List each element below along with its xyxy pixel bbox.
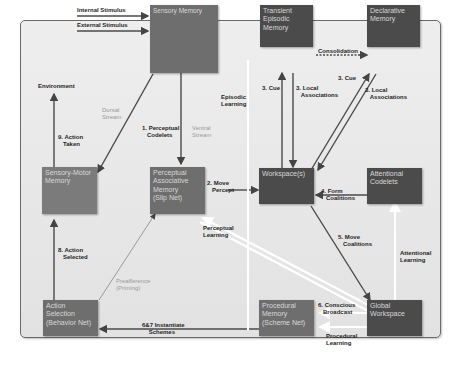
label-episodic-learning: Episodic Learning xyxy=(221,94,246,108)
label-move-coalitions: 5. Move Coalitions xyxy=(338,234,372,248)
label-move-percept: 2. Move Percept xyxy=(207,180,234,194)
label-preafference: Preafference (Priming) xyxy=(116,278,150,292)
node-declarative-memory: Declarative Memory xyxy=(367,5,420,47)
label-procedural-learning: Procedural Learning xyxy=(326,333,357,347)
node-workspace: Workspace(s) xyxy=(259,168,314,204)
label-environment: Environment xyxy=(38,83,75,90)
label-perceptual-codelets: 1. Perceptual Codelets xyxy=(142,125,179,139)
label-local-associations-dm: 3. Local Associations xyxy=(365,87,407,101)
node-procedural-memory: Procedural Memory (Scheme Net) xyxy=(259,300,314,336)
label-cue-dm: 3. Cue xyxy=(338,75,356,82)
label-ventral-stream: Ventral Stream xyxy=(192,125,211,139)
node-attentional-codelets: Attentional Codelets xyxy=(367,168,422,204)
label-action-taken: 9. Action Taken xyxy=(58,134,83,148)
node-transient-episodic-memory: Transient Episodic Memory xyxy=(260,5,313,47)
label-action-selected: 8. Action Selected xyxy=(58,247,88,261)
node-sensory-memory: Sensory Memory xyxy=(150,5,218,73)
label-form-coalitions: 4. Form Coalitions xyxy=(321,188,355,202)
label-instantiate-schemes: 6&7 Instantiate Schemes xyxy=(142,322,185,336)
node-global-workspace: Global Workspace xyxy=(367,300,422,336)
label-external-stimulus: External Stimulus xyxy=(77,22,128,29)
node-sensory-motor-memory: Sensory-Motor Memory xyxy=(42,167,97,214)
label-consolidation: Consolidation xyxy=(318,48,358,55)
label-local-associations-teml: 3. Local Associations xyxy=(296,85,338,99)
label-internal-stimulus: Internal Stimulus xyxy=(77,7,126,14)
label-cue-teml: 3. Cue xyxy=(262,85,280,92)
label-attentional-learning: Attentional Learning xyxy=(400,250,431,264)
label-perceptual-learning: Perceptual Learning xyxy=(203,225,234,239)
label-dorsal-stream: Dorsal Stream xyxy=(102,107,121,121)
node-perceptual-associative-memory: Perceptual Associative Memory (Slip Net) xyxy=(150,167,205,214)
node-action-selection: Action Selection (Behavior Net) xyxy=(43,300,98,336)
label-conscious-broadcast: 6. Conscious Broadcast xyxy=(318,302,355,316)
